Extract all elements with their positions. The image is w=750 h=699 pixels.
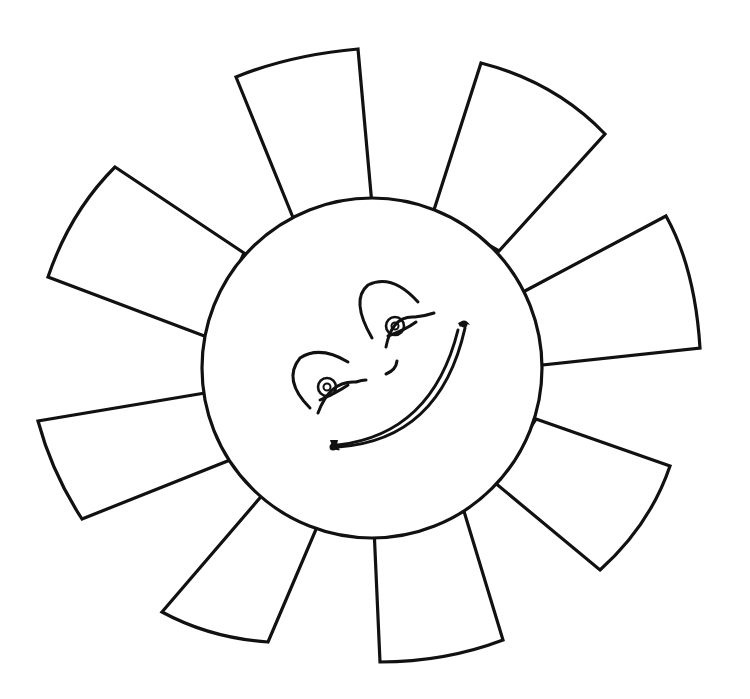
sun-ray <box>236 49 372 220</box>
sun-illustration <box>0 0 750 699</box>
sun-ray <box>38 393 230 519</box>
sun-coloring-page <box>0 0 750 699</box>
sun-ray <box>523 216 700 365</box>
sun-disc <box>202 198 542 538</box>
